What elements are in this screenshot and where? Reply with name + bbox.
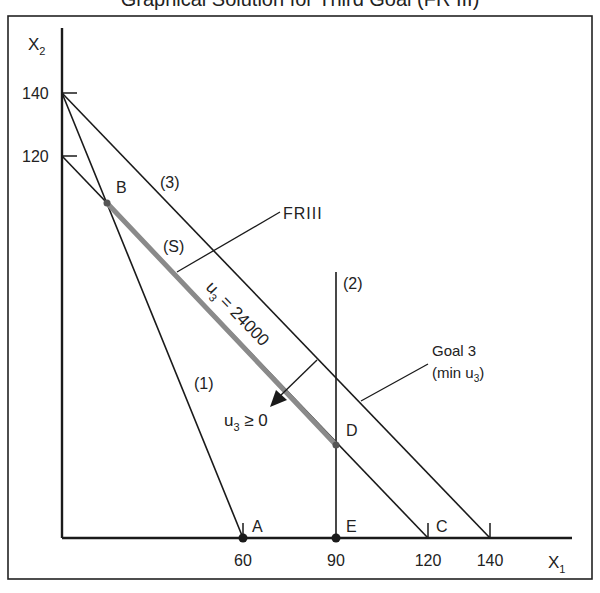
x-tick-label-90: 90 [327,552,345,569]
x-axis-label: X1 [548,553,565,575]
y-tick-label-120: 120 [22,148,49,165]
label-point-b: B [116,179,127,196]
label-point-e: E [346,518,357,535]
label-fr3: FRIII [283,205,323,222]
point-a [239,534,248,543]
feasible-segment-bd [107,203,336,445]
y-axis-label: X2 [28,35,45,57]
chart-canvas: X2 X1 140 120 60 90 120 140 A E C B D (3… [0,0,600,593]
y-tick-label-140: 140 [22,85,49,102]
point-e [332,534,341,543]
goal3-leader-line [361,364,428,401]
label-goal3: Goal 3 [432,342,476,359]
point-d [333,442,340,449]
constraint-line-3 [62,93,490,538]
label-goal3-min: (min u3) [432,364,484,384]
fr-leader-line [177,212,280,272]
label-point-d: D [346,422,358,439]
x-tick-label-60: 60 [234,552,252,569]
frame [8,16,592,579]
label-constraint-s: (S) [163,238,184,255]
label-constraint-2: (2) [343,275,363,292]
x-tick-label-140: 140 [477,552,504,569]
direction-arrow-shaft [280,360,317,396]
x-tick-label-120: 120 [415,552,442,569]
label-point-a: A [252,518,263,535]
label-point-c: C [436,518,448,535]
label-constraint-1: (1) [194,375,214,392]
label-constraint-3: (3) [160,174,180,191]
label-u3-nonneg: u3 ≥ 0 [224,411,268,433]
point-b [104,200,111,207]
